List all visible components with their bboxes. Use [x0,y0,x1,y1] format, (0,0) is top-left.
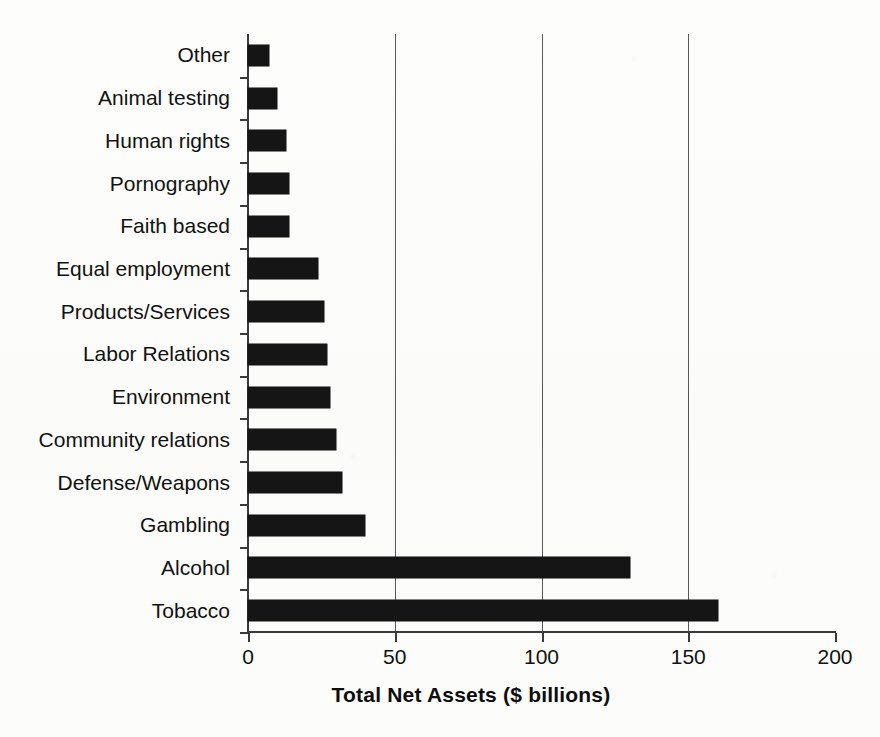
bar-environment [248,387,330,408]
y-tick-6 [240,333,248,335]
y-tick-7 [240,376,248,378]
category-label-human-rights: Human rights [0,129,240,153]
y-tick-10 [240,504,248,506]
category-label-animal-testing: Animal testing [0,86,240,110]
category-label-other: Other [0,43,240,67]
y-tick-8 [240,418,248,420]
y-tick-1 [240,119,248,121]
gridline-150 [688,34,689,632]
x-tick-label-150: 150 [671,645,706,669]
x-tick-150 [688,633,690,642]
bar-community-relations [248,429,336,450]
bar-tobacco [248,600,718,621]
x-tick-label-100: 100 [524,645,559,669]
category-label-equal-employment: Equal employment [0,257,240,281]
bar-products-services [248,301,324,322]
category-label-defense-weapons: Defense/Weapons [0,471,240,495]
bar-equal-employment [248,258,318,279]
bar-faith-based [248,216,289,237]
bar-pornography [248,173,289,194]
category-label-labor-relations: Labor Relations [0,342,240,366]
bar-gambling [248,515,365,536]
category-label-community-relations: Community relations [0,428,240,452]
bar-labor-relations [248,344,327,365]
y-tick-11 [240,547,248,549]
bar-chart: Total Net Assets ($ billions) 0501001502… [0,0,880,737]
y-tick-12 [240,589,248,591]
x-axis-title-text: Total Net Assets ($ billions) [332,683,611,707]
x-tick-label-50: 50 [383,645,406,669]
x-tick-0 [248,633,250,642]
y-tick-4 [240,248,248,250]
category-label-environment: Environment [0,385,240,409]
category-label-faith-based: Faith based [0,214,240,238]
plot-area [248,34,835,632]
x-tick-50 [395,633,397,642]
bar-defense-weapons [248,472,342,493]
bar-human-rights [248,130,286,151]
y-tick-13 [240,632,248,634]
y-tick-3 [240,205,248,207]
category-label-pornography: Pornography [0,172,240,196]
y-tick-5 [240,290,248,292]
x-tick-label-200: 200 [817,645,852,669]
gridline-50 [395,34,396,632]
bar-alcohol [248,557,630,578]
bar-other [248,45,269,66]
x-axis-title: Total Net Assets ($ billions) [0,683,880,707]
y-tick-9 [240,461,248,463]
category-label-tobacco: Tobacco [0,599,240,623]
x-tick-200 [835,633,837,642]
x-tick-100 [542,633,544,642]
gridline-100 [542,34,543,632]
y-tick-2 [240,162,248,164]
category-label-products-services: Products/Services [0,300,240,324]
category-label-alcohol: Alcohol [0,556,240,580]
bar-animal-testing [248,88,277,109]
x-tick-label-0: 0 [242,645,254,669]
y-tick-0 [240,77,248,79]
category-label-gambling: Gambling [0,513,240,537]
